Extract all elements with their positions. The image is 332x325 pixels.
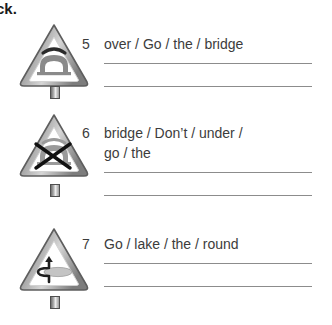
arch-bridge-crossed-icon bbox=[18, 112, 90, 178]
arch-bridge-icon bbox=[18, 22, 90, 88]
sign-post-3 bbox=[50, 296, 60, 309]
answer-line[interactable] bbox=[104, 172, 312, 173]
answer-line[interactable] bbox=[104, 86, 312, 87]
answer-lines bbox=[104, 63, 332, 87]
prompt-line: Go / lake / the / round bbox=[104, 234, 314, 254]
exercise-number: 7 bbox=[82, 234, 90, 254]
sign-post-2 bbox=[50, 184, 60, 197]
prompt-line: go / the bbox=[104, 143, 314, 163]
exercise-item-6: 6 bridge / Don’t / under / go / the bbox=[82, 123, 332, 196]
answer-line[interactable] bbox=[104, 195, 312, 196]
answer-line[interactable] bbox=[104, 263, 312, 264]
exercise-number: 6 bbox=[82, 123, 90, 143]
exercise-prompt: Go / lake / the / round bbox=[104, 234, 314, 254]
answer-lines bbox=[104, 263, 332, 287]
exercise-prompt: bridge / Don’t / under / go / the bbox=[104, 123, 314, 163]
exercise-prompt: over / Go / the / bridge bbox=[104, 34, 314, 54]
exercise-item-7: 7 Go / lake / the / round bbox=[82, 234, 332, 287]
answer-lines bbox=[104, 172, 332, 196]
prompt-line: bridge / Don’t / under / bbox=[104, 123, 314, 143]
arrow-around-lake-icon bbox=[18, 226, 90, 292]
exercise-item-5: 5 over / Go / the / bridge bbox=[82, 34, 332, 87]
answer-line[interactable] bbox=[104, 286, 312, 287]
sign-post-1 bbox=[50, 86, 60, 99]
answer-line[interactable] bbox=[104, 63, 312, 64]
exercise-number: 5 bbox=[82, 34, 90, 54]
prompt-line: over / Go / the / bridge bbox=[104, 34, 314, 54]
